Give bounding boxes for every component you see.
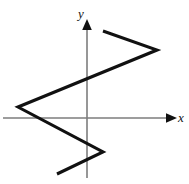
x-axis-label: x: [177, 110, 184, 125]
x-axis-arrowhead: [166, 113, 177, 123]
graph-figure: y x: [0, 0, 189, 184]
y-axis-label: y: [76, 6, 84, 21]
coordinate-plane-svg: y x: [0, 0, 189, 184]
